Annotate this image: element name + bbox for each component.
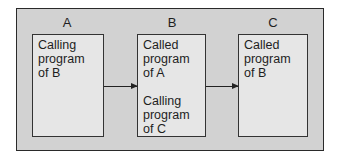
module-a-text: Calling bbox=[38, 38, 98, 52]
module-b-text: program bbox=[143, 52, 200, 66]
module-c-label: C bbox=[263, 15, 283, 30]
module-b-text: Called bbox=[143, 38, 200, 52]
module-a-text: program bbox=[38, 52, 98, 66]
module-a-label: A bbox=[57, 15, 77, 30]
module-a-box: Calling program of B bbox=[32, 34, 104, 137]
module-a-text: of B bbox=[38, 66, 98, 80]
module-c-text: Called bbox=[244, 38, 302, 52]
arrow-a-to-b bbox=[104, 86, 137, 87]
module-b-text: of A bbox=[143, 66, 200, 80]
module-b-text: of C bbox=[143, 122, 200, 136]
module-c-box: Called program of B bbox=[238, 34, 308, 137]
module-b-text: program bbox=[143, 108, 200, 122]
module-b-box: Called program of A Calling program of C bbox=[137, 34, 206, 137]
module-b-label: B bbox=[162, 15, 182, 30]
module-c-text: program bbox=[244, 52, 302, 66]
module-b-text: Calling bbox=[143, 94, 200, 108]
arrow-b-to-c bbox=[206, 86, 238, 87]
module-c-text: of B bbox=[244, 66, 302, 80]
